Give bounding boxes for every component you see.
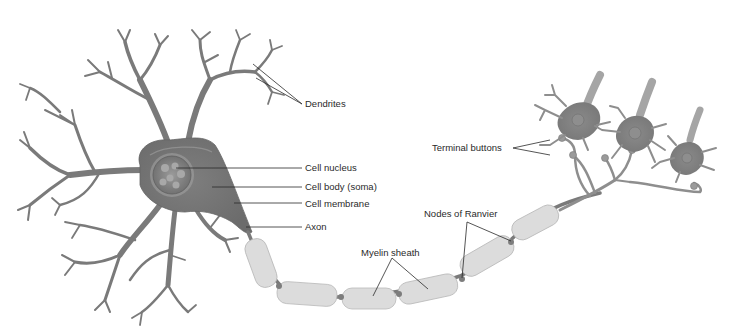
- label-cell-membrane: Cell membrane: [305, 198, 369, 209]
- neuron-diagram: Dendrites Cell nucleus Cell body (soma) …: [0, 0, 741, 336]
- target-neuron-3: [652, 110, 716, 182]
- label-nodes-of-ranvier: Nodes of Ranvier: [424, 208, 497, 219]
- label-axon: Axon: [305, 221, 327, 232]
- label-myelin-sheath: Myelin sheath: [361, 247, 420, 258]
- label-terminal-buttons: Terminal buttons: [432, 142, 502, 153]
- label-cell-body: Cell body (soma): [305, 181, 377, 192]
- label-cell-nucleus: Cell nucleus: [305, 162, 357, 173]
- cell-nucleus: [150, 153, 194, 197]
- label-dendrites: Dendrites: [305, 98, 346, 109]
- target-neuron-1: [535, 75, 610, 150]
- neuron-illustration: Dendrites Cell nucleus Cell body (soma) …: [0, 0, 741, 336]
